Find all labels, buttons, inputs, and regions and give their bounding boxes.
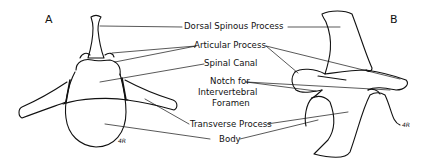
label-notch-line2: Intervertebral — [198, 88, 257, 97]
vertebra-anterior-view — [19, 16, 177, 148]
label-notch-line3: Foramen — [212, 99, 250, 108]
label-body: Body — [219, 135, 241, 144]
signature-a: 4R — [118, 138, 126, 144]
panel-b-letter: B — [390, 13, 398, 26]
label-transverse-process: Transverse Process — [190, 120, 272, 129]
label-dorsal-spinous-process: Dorsal Spinous Process — [184, 22, 284, 31]
label-articular-process: Articular Process — [194, 41, 266, 50]
label-spinal-canal: Spinal Canal — [204, 59, 258, 68]
panel-a-letter: A — [45, 13, 53, 26]
vertebra-lateral-view — [292, 11, 407, 158]
signature-b: 4R — [402, 122, 410, 128]
label-notch-line1: Notch for — [210, 77, 250, 86]
